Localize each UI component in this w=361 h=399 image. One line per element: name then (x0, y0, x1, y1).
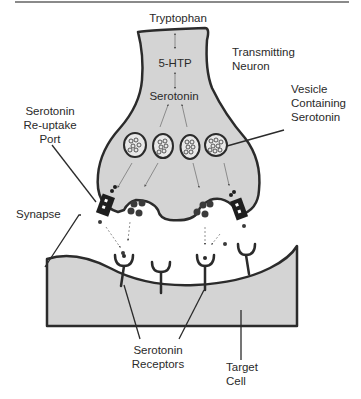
label-target: Target (226, 361, 259, 373)
target-cell (47, 246, 297, 326)
label-reuptake: Re-uptake (23, 119, 76, 131)
label-vesicle-serotonin: Serotonin (291, 111, 340, 123)
label-5-htp: 5-HTP (158, 57, 192, 69)
label-port: Port (39, 133, 61, 145)
label-tryptophan: Tryptophan (149, 12, 207, 24)
label-transmitting: Transmitting (232, 46, 295, 58)
label-containing: Containing (291, 97, 346, 109)
label-serotonin: Serotonin (149, 90, 198, 102)
label-receptors-serotonin: Serotonin (133, 344, 182, 356)
label-neuron: Neuron (232, 60, 270, 72)
label-synapse: Synapse (16, 208, 61, 220)
label-cell: Cell (226, 375, 246, 387)
label-receptors: Receptors (132, 358, 185, 370)
serotonin-diagram: Tryptophan 5-HTP Serotonin Transmitting … (0, 0, 361, 399)
label-reuptake-serotonin: Serotonin (25, 105, 74, 117)
label-vesicle: Vesicle (291, 83, 327, 95)
